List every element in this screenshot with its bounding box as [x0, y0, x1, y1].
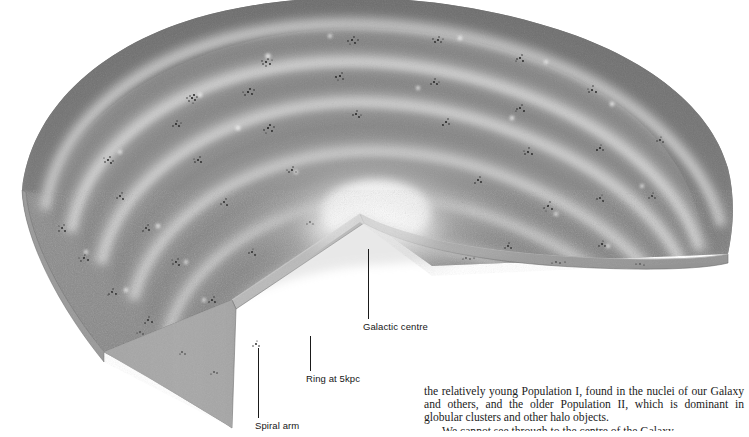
label-galactic-centre: Galactic centre: [363, 322, 428, 332]
leader-line-ring-at-5kpc: [310, 336, 311, 371]
label-spiral-arm: Spiral arm: [255, 421, 299, 431]
galaxy-disc: [0, 0, 749, 437]
body-text-block: the relatively young Population I, found…: [424, 385, 744, 431]
leader-line-spiral-arm: [258, 348, 259, 418]
page-root: Galactic centre Ring at 5kpc Spiral arm …: [0, 0, 749, 437]
label-ring-at-5kpc: Ring at 5kpc: [306, 374, 360, 384]
galaxy-cutaway-illustration: [0, 0, 749, 437]
galaxy-svg: [0, 0, 749, 437]
body-paragraph-1: the relatively young Population I, found…: [424, 385, 744, 425]
leader-line-galactic-centre: [368, 249, 369, 319]
body-paragraph-2-clipped: We cannot see through to the centre of t…: [424, 425, 744, 431]
